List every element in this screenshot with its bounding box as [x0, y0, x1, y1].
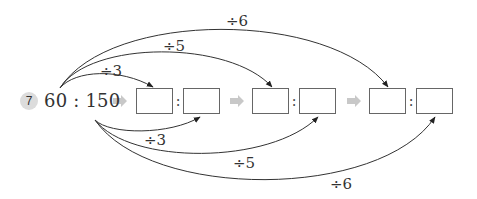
colon-1: : [174, 90, 182, 112]
bottom-label-div5: ÷5 [233, 154, 255, 172]
answer-box-1-left[interactable] [136, 88, 173, 114]
problem-number-badge: 7 [20, 92, 38, 110]
bottom-label-div6: ÷6 [330, 175, 352, 193]
answer-box-3-right[interactable] [416, 88, 453, 114]
bottom-label-div3: ÷3 [144, 131, 166, 149]
answer-box-2-left[interactable] [252, 88, 289, 114]
answer-box-3-left[interactable] [369, 88, 406, 114]
given-ratio: 60 : 150 [44, 90, 120, 112]
top-label-div5: ÷5 [163, 37, 185, 55]
colon-3: : [407, 90, 415, 112]
bottom-arc-div3 [95, 117, 200, 131]
top-label-div3: ÷3 [100, 62, 122, 80]
top-label-div6: ÷6 [226, 12, 248, 30]
bottom-arc-div5 [95, 117, 318, 153]
top-arc-div5 [60, 52, 272, 88]
colon-2: : [290, 90, 298, 112]
answer-box-1-right[interactable] [183, 88, 220, 114]
answer-box-2-right[interactable] [299, 88, 336, 114]
